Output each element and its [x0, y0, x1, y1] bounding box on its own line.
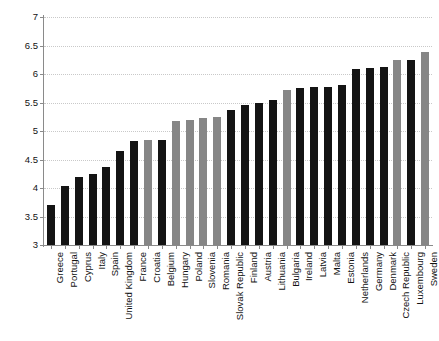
bar — [186, 120, 194, 245]
x-axis-label: Spain — [110, 252, 120, 276]
bar — [241, 105, 249, 245]
x-tick-mark — [148, 245, 149, 249]
gridline — [44, 103, 432, 104]
bar — [393, 60, 401, 245]
x-axis-label: Cyprus — [83, 252, 93, 282]
bar — [380, 67, 388, 245]
bar — [89, 174, 97, 245]
x-axis-label: Ireland — [304, 252, 314, 281]
x-tick-mark — [120, 245, 121, 249]
x-tick-mark — [314, 245, 315, 249]
gridline — [44, 131, 432, 132]
x-tick-mark — [384, 245, 385, 249]
x-tick-mark — [328, 245, 329, 249]
bar — [102, 167, 110, 245]
y-tick-mark — [40, 245, 44, 246]
x-tick-mark — [342, 245, 343, 249]
x-axis-label: Sweden — [429, 252, 439, 286]
x-axis-label: Portugal — [69, 252, 79, 287]
x-axis-label: Luxembourg — [415, 252, 425, 305]
bar — [75, 177, 83, 245]
y-tick-label: 3.5 — [4, 212, 38, 222]
bar — [296, 88, 304, 245]
y-tick-label: 4 — [4, 183, 38, 193]
x-axis-label: Austria — [263, 252, 273, 282]
bar-chart: 33.544.555.566.57 GreecePortugalCyprusIt… — [0, 0, 439, 341]
x-axis-label: Bulgaria — [291, 252, 301, 287]
y-tick-label: 6.5 — [4, 41, 38, 51]
x-axis-label: Italy — [97, 252, 107, 269]
x-tick-mark — [245, 245, 246, 249]
y-tick-label: 5.5 — [4, 98, 38, 108]
plot-area: 33.544.555.566.57 — [44, 17, 432, 245]
y-tick-label: 5 — [4, 126, 38, 136]
gridline — [44, 74, 432, 75]
x-tick-mark — [273, 245, 274, 249]
bar — [172, 121, 180, 245]
x-tick-mark — [370, 245, 371, 249]
x-axis-label: Croatia — [152, 252, 162, 283]
y-tick-mark — [40, 103, 44, 104]
bar — [352, 69, 360, 245]
gridline — [44, 17, 432, 18]
x-tick-mark — [51, 245, 52, 249]
x-axis-label: Belgium — [166, 252, 176, 286]
x-axis-label: Netherlands — [360, 252, 370, 303]
x-axis-label: Malta — [332, 252, 342, 275]
x-axis-line — [43, 245, 433, 246]
y-tick-mark — [40, 46, 44, 47]
bar — [47, 205, 55, 245]
x-axis-label: Hungary — [180, 252, 190, 288]
x-axis-label: Romania — [221, 252, 231, 290]
y-tick-label: 7 — [4, 12, 38, 22]
x-axis-label: France — [138, 252, 148, 282]
x-axis-label: Slovak Republic — [235, 252, 245, 320]
bar — [158, 140, 166, 245]
y-tick-mark — [40, 17, 44, 18]
x-axis-label: Estonia — [346, 252, 356, 284]
x-tick-mark — [79, 245, 80, 249]
bar — [116, 151, 124, 245]
bar — [407, 60, 415, 245]
x-tick-mark — [162, 245, 163, 249]
x-tick-mark — [425, 245, 426, 249]
bar — [283, 90, 291, 245]
bar — [338, 85, 346, 245]
bar — [144, 140, 152, 245]
x-tick-mark — [300, 245, 301, 249]
x-axis-label: United Kingdom — [124, 252, 134, 320]
x-tick-mark — [259, 245, 260, 249]
x-tick-mark — [231, 245, 232, 249]
y-tick-mark — [40, 74, 44, 75]
x-tick-mark — [65, 245, 66, 249]
x-axis-label: Lithuania — [277, 252, 287, 291]
y-tick-mark — [40, 188, 44, 189]
bar — [61, 186, 69, 245]
x-tick-mark — [203, 245, 204, 249]
x-axis-label: Germany — [374, 252, 384, 291]
y-tick-label: 6 — [4, 69, 38, 79]
bar — [421, 52, 429, 245]
x-axis-label: Latvia — [318, 252, 328, 277]
bar — [130, 141, 138, 245]
y-tick-mark — [40, 217, 44, 218]
x-tick-mark — [356, 245, 357, 249]
x-tick-mark — [106, 245, 107, 249]
x-tick-mark — [190, 245, 191, 249]
x-tick-mark — [287, 245, 288, 249]
bar — [269, 100, 277, 245]
gridline — [44, 160, 432, 161]
x-tick-mark — [134, 245, 135, 249]
x-tick-mark — [217, 245, 218, 249]
x-axis-label: Denmark — [388, 252, 398, 291]
bar — [324, 87, 332, 245]
x-tick-mark — [411, 245, 412, 249]
bar — [227, 110, 235, 245]
bar — [213, 117, 221, 245]
bar — [366, 68, 374, 245]
x-axis-label: Slovenia — [207, 252, 217, 288]
bar — [199, 118, 207, 245]
y-tick-mark — [40, 160, 44, 161]
x-tick-mark — [176, 245, 177, 249]
bar — [310, 87, 318, 245]
